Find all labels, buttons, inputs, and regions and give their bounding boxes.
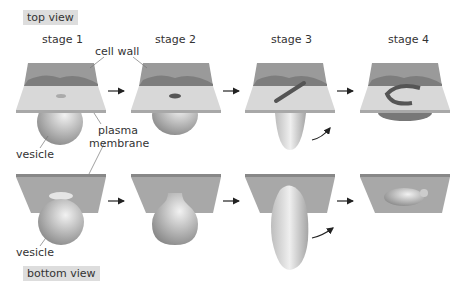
bottom-view-label: bottom view (23, 266, 100, 281)
vesicle-label-top: vesicle (16, 148, 54, 161)
vesicle-label-bottom: vesicle (16, 246, 54, 259)
top-stage-1 (16, 63, 106, 145)
stage-3-label: stage 3 (271, 33, 312, 46)
plasma-label: plasma (98, 124, 138, 137)
bottom-stage-4 (360, 174, 450, 213)
membrane-label: membrane (89, 137, 149, 150)
top-view-label: top view (23, 10, 78, 25)
bottom-stage-2 (131, 174, 221, 245)
top-stage-4 (360, 63, 450, 121)
stage-2-label: stage 2 (155, 33, 196, 46)
stage-4-label: stage 4 (388, 33, 429, 46)
cell-wall-label: cell wall (95, 45, 139, 58)
stage-1-label: stage 1 (42, 33, 83, 46)
top-stage-2 (131, 63, 221, 135)
bottom-stage-1 (16, 174, 106, 245)
bottom-stage-3 (245, 174, 335, 270)
top-stage-3 (245, 63, 335, 150)
